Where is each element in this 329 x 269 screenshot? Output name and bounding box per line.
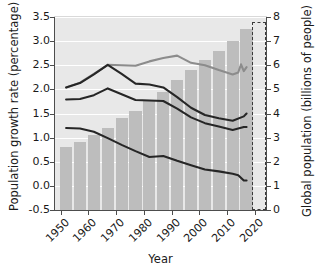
y-axis-right-tick-label: 0 xyxy=(273,204,280,215)
x-axis-tick xyxy=(199,211,200,215)
y-axis-right-tick xyxy=(267,138,271,139)
x-axis-tick xyxy=(61,211,62,215)
projection-box-annotation xyxy=(252,22,266,210)
line-series xyxy=(66,88,246,130)
y-axis-right-tick-label: 3 xyxy=(273,132,280,143)
x-axis-tick xyxy=(172,211,173,215)
x-axis-tick-label: 2000 xyxy=(182,216,211,245)
x-axis-tick-label: 1950 xyxy=(43,216,72,245)
y-axis-right-tick-label: 4 xyxy=(273,108,280,119)
x-axis-tick xyxy=(116,211,117,215)
y-axis-right-tick-label: 5 xyxy=(273,83,280,94)
y-axis-right-tick-label: 7 xyxy=(273,35,280,46)
y-axis-right-tick xyxy=(267,17,271,18)
y-axis-right-tick-label: 6 xyxy=(273,59,280,70)
x-axis-tick xyxy=(227,211,228,215)
x-axis-tick-label: 1990 xyxy=(154,216,183,245)
y-axis-left-tick xyxy=(50,114,54,115)
y-axis-left-title: Population growth rate (percentage) xyxy=(7,11,21,211)
y-axis-right-tick xyxy=(267,89,271,90)
y-axis-right-title: Global population (billions of people) xyxy=(300,1,314,221)
y-axis-right-tick xyxy=(267,114,271,115)
population-growth-chart: 3.53.02.52.01.51.00.50.0-0.5 876543210 1… xyxy=(0,0,329,269)
y-axis-right-tick xyxy=(267,186,271,187)
y-axis-right-tick xyxy=(267,41,271,42)
y-axis-right-tick-label: 8 xyxy=(273,11,280,22)
line-series-group xyxy=(55,17,266,210)
x-axis-tick xyxy=(88,211,89,215)
y-axis-right-tick-label: 2 xyxy=(273,156,280,167)
x-axis-tick-label: 1980 xyxy=(126,216,155,245)
plot-area xyxy=(55,17,266,210)
y-axis-left-tick xyxy=(50,162,54,163)
line-series xyxy=(66,56,246,88)
line-series xyxy=(66,128,246,181)
axis-spine-top xyxy=(54,16,267,17)
y-axis-left-tick xyxy=(50,65,54,66)
y-axis-right-tick-label: 1 xyxy=(273,180,280,191)
x-axis-tick-label: 1970 xyxy=(98,216,127,245)
y-axis-left-tick xyxy=(50,186,54,187)
y-axis-right-tick xyxy=(267,162,271,163)
x-axis-tick-label: 2020 xyxy=(237,216,266,245)
y-axis-left-tick xyxy=(50,41,54,42)
axis-spine-left xyxy=(54,17,55,211)
y-axis-left-tick xyxy=(50,210,54,211)
x-axis-tick xyxy=(144,211,145,215)
y-axis-right-tick xyxy=(267,65,271,66)
x-axis-tick-label: 2010 xyxy=(209,216,238,245)
y-axis-left-tick xyxy=(50,89,54,90)
x-axis-tick xyxy=(255,211,256,215)
y-axis-right-tick xyxy=(267,210,271,211)
x-axis-tick-label: 1960 xyxy=(71,216,100,245)
y-axis-left-tick xyxy=(50,17,54,18)
axis-spine-bottom xyxy=(54,210,267,211)
y-axis-left-tick xyxy=(50,138,54,139)
x-axis-title: Year xyxy=(55,252,266,266)
